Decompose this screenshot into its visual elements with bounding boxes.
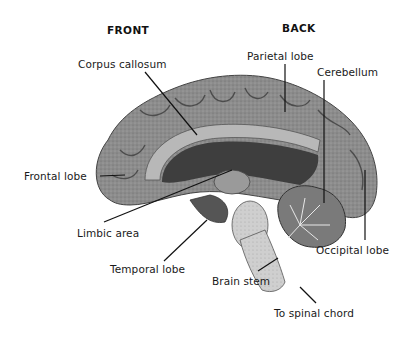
label-frontal-lobe: Frontal lobe xyxy=(24,170,87,182)
heading-front: FRONT xyxy=(107,24,149,36)
temporal-region xyxy=(190,195,228,223)
leader-temporal-lobe xyxy=(164,220,207,261)
label-temporal-lobe: Temporal lobe xyxy=(110,263,185,275)
label-cerebellum: Cerebellum xyxy=(317,66,378,78)
label-limbic-area: Limbic area xyxy=(77,227,139,239)
leader-spinal-chord xyxy=(300,287,316,303)
label-corpus-callosum: Corpus callosum xyxy=(78,58,167,70)
label-occipital-lobe: Occipital lobe xyxy=(316,244,389,256)
label-spinal-chord: To spinal chord xyxy=(274,307,354,319)
label-brain-stem: Brain stem xyxy=(212,275,270,287)
heading-back: BACK xyxy=(282,22,316,34)
brain-sagittal-illustration xyxy=(0,0,419,337)
thalamus xyxy=(214,170,250,194)
label-parietal-lobe: Parietal lobe xyxy=(247,50,314,62)
